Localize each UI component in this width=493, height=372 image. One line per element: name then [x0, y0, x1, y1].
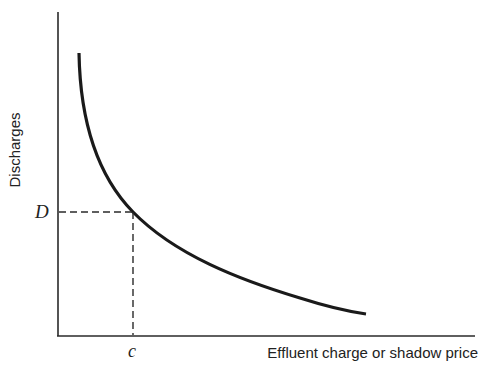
- x-mark-c: c: [128, 341, 136, 362]
- y-axis-label: Discharges: [6, 112, 23, 187]
- y-mark-D: D: [35, 201, 49, 223]
- chart-canvas: [0, 0, 493, 372]
- x-axis-label: Effluent charge or shadow price: [267, 344, 478, 361]
- demand-curve: [79, 53, 366, 314]
